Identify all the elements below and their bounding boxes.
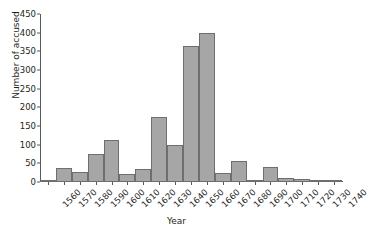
y-tick-mark [37, 14, 40, 15]
x-tick-mark [286, 182, 287, 185]
x-tick-mark [96, 182, 97, 185]
bar [151, 117, 167, 182]
bar [167, 145, 183, 182]
y-tick-mark [37, 126, 40, 127]
bar [104, 140, 120, 182]
x-tick-mark [255, 182, 256, 185]
x-tick-mark [207, 182, 208, 185]
bar [183, 46, 199, 182]
bar [231, 161, 247, 182]
x-tick-mark [302, 182, 303, 185]
x-tick-mark [48, 182, 49, 185]
bar [88, 154, 104, 182]
plot-area: 050100150200250300350400450 156015701580… [40, 14, 342, 182]
x-tick-mark [127, 182, 128, 185]
y-tick-mark [37, 107, 40, 108]
bar [215, 173, 231, 182]
x-tick-mark [191, 182, 192, 185]
bar [263, 167, 279, 182]
x-tick-mark [239, 182, 240, 185]
x-tick-mark [159, 182, 160, 185]
y-tick-mark [37, 51, 40, 52]
x-tick-mark [112, 182, 113, 185]
x-tick-mark [223, 182, 224, 185]
y-tick-mark [37, 144, 40, 145]
x-tick-mark [318, 182, 319, 185]
y-tick-mark [37, 163, 40, 164]
x-tick-mark [270, 182, 271, 185]
bar [135, 169, 151, 182]
y-tick-mark [37, 70, 40, 71]
bar [199, 33, 215, 182]
y-tick-mark [37, 32, 40, 33]
bar [119, 174, 135, 182]
x-tick-mark [80, 182, 81, 185]
bar [56, 168, 72, 182]
x-tick-mark [334, 182, 335, 185]
x-tick-mark [64, 182, 65, 185]
bar [72, 172, 88, 182]
x-tick-mark [175, 182, 176, 185]
x-tick-mark [143, 182, 144, 185]
y-tick-mark [37, 88, 40, 89]
x-axis-label: Year [0, 216, 353, 226]
